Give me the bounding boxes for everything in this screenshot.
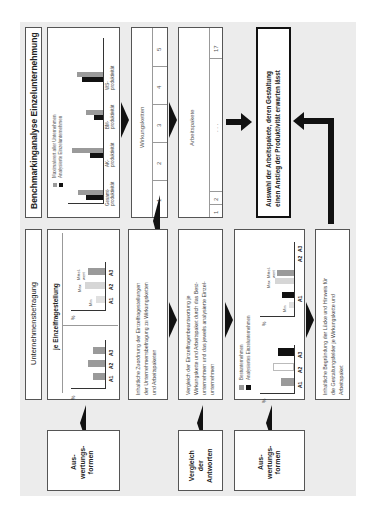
benchmark-chart: Maximalwert aller Unternehmen Analysiert…	[47, 27, 120, 218]
bar-bm-analysed	[94, 115, 103, 120]
wirkungsketten-box: Wirkungsketten 1 2 3 4 5	[131, 27, 168, 218]
y-label: %	[261, 399, 267, 403]
legend-swatch-black	[246, 385, 251, 390]
min-label: Min	[88, 300, 93, 306]
legend-analysed: Analysierte Einzelunternehmen	[58, 116, 63, 178]
cat-a1: A1	[297, 296, 303, 302]
einzelfrage-chart: je Einzelfragestellung % A1 A2 A3 % Min …	[47, 229, 120, 400]
cat-gesamt: Gesamt-produktivität	[105, 182, 115, 206]
axis	[260, 316, 295, 317]
divider	[209, 28, 210, 217]
label-text: VergleichderAntworten	[187, 448, 214, 483]
label-auswertungsformen-2: Aus-wertungs-formen	[234, 430, 305, 491]
divider	[62, 233, 63, 393]
axis	[71, 388, 106, 389]
max-label: Max	[266, 280, 271, 288]
arrow-right-icon	[121, 102, 129, 138]
wirkungsketten-label: Wirkungsketten	[139, 107, 145, 148]
wk-cell-5: 5	[156, 48, 162, 51]
y-label: %	[70, 316, 76, 320]
cat-a1: A1	[108, 376, 114, 382]
legend-swatch-gray	[239, 385, 244, 390]
benchmarking-title: Benchmarkinganalyse Einzelunternehmung	[29, 32, 39, 209]
bar-a3	[93, 347, 105, 354]
legend-best: Bestunternehmen	[239, 344, 244, 380]
thick-arrow-right-icon	[241, 113, 252, 131]
zuordnung-text-box: Inhaltliche Zuordnung der Einzelfrageste…	[128, 229, 168, 400]
y-label: %	[261, 322, 267, 326]
divider	[152, 180, 167, 181]
mittelwert-label: Mittel-wert	[77, 269, 86, 280]
ap-cell-17: 17	[213, 45, 219, 52]
bar-ws-analysed	[82, 77, 103, 82]
divider	[209, 204, 222, 205]
legend-analysed: Analysiertes Einzelunternehmen	[246, 315, 251, 380]
max-label: Max	[77, 284, 82, 292]
cat-a2: A2	[297, 256, 303, 262]
cat-a3: A3	[297, 352, 303, 358]
arrow-right-icon	[169, 302, 177, 338]
wk-cell-3: 3	[156, 124, 162, 127]
vergleich-text-box: Vergleich der Einzelfragenbeantwortung j…	[178, 229, 223, 400]
cat-bm: BM-produktivität	[105, 105, 115, 129]
ap-cell-ellipsis: . . .	[213, 124, 219, 132]
thick-arrow-shaft	[226, 119, 242, 125]
legend-swatch-black	[59, 183, 63, 187]
benchmarking-title-box: Benchmarkinganalyse Einzelunternehmung	[25, 27, 42, 218]
bar-mittelwert	[277, 270, 294, 276]
bar-min	[289, 302, 294, 308]
bar-a1	[281, 378, 294, 386]
legend-max: Maximalwert aller Unternehmen	[52, 114, 57, 178]
wk-cell-4: 4	[156, 86, 162, 89]
cat-ws: WS-produktivität	[105, 66, 115, 90]
cat-a3: A3	[297, 246, 303, 252]
bar-analysed	[282, 292, 294, 298]
label-text: Aus-wertungs-formen	[257, 446, 283, 479]
zuordnung-text: Inhaltliche Zuordnung der Einzelfrageste…	[134, 282, 158, 395]
cat-a2: A2	[108, 363, 114, 369]
bar-a1	[93, 373, 105, 380]
label-auswertungsformen-1: Aus-wertungs-formen	[47, 430, 120, 491]
bar-max	[85, 282, 105, 289]
cat-ak: AK-produktivität	[105, 143, 115, 167]
bar-ak-analysed	[90, 153, 103, 158]
axis	[105, 262, 106, 311]
bar-a2	[273, 363, 294, 371]
ap-cell-1: 1	[213, 211, 219, 214]
mittelwert-label: Mittel-wert	[267, 267, 276, 278]
auswahl-box: Auswahl der Arbeitspakete, deren Gestalt…	[256, 27, 291, 218]
bar-a2	[88, 360, 105, 367]
divider	[152, 66, 167, 67]
feedback-arrow-horizontal	[304, 118, 334, 124]
bar-min	[96, 296, 105, 303]
thick-arrow-left-icon	[293, 112, 304, 130]
befragung-title: Unternehmensbefragung	[29, 282, 38, 365]
arbeitspakete-box: Arbeitspakete 1 2 . . . 17	[178, 27, 223, 218]
bar-max	[275, 278, 294, 284]
bar-mittelwert	[88, 268, 105, 275]
vergleich-chart: Bestunternehmen Analysiertes Einzelunter…	[234, 229, 305, 400]
einzelfrage-subtitle: je Einzelfragestellung	[52, 283, 59, 350]
min-label: Min	[282, 306, 287, 312]
cat-a2: A2	[297, 367, 303, 373]
cat-a1: A1	[108, 298, 114, 304]
axis	[294, 242, 295, 317]
wk-cell-2: 2	[156, 162, 162, 165]
divider	[152, 104, 167, 105]
arrow-right-icon	[306, 302, 314, 338]
feedback-arrow-vertical	[328, 118, 334, 224]
axis	[71, 310, 106, 311]
ap-cell-2: 2	[213, 198, 219, 201]
chart-y-axis	[68, 203, 104, 204]
y-label: %	[70, 396, 76, 400]
chart-x-axis	[103, 38, 104, 204]
arrow-right-icon	[225, 302, 233, 338]
divider	[209, 191, 222, 192]
divider	[152, 28, 153, 217]
begruendung-text-box: Inhaltliche Begründung der Lücke und Hin…	[315, 229, 350, 400]
axis	[105, 340, 106, 389]
cat-a2: A2	[108, 284, 114, 290]
legend-swatch-gray	[53, 183, 57, 187]
axis	[260, 393, 295, 394]
axis	[294, 345, 295, 394]
